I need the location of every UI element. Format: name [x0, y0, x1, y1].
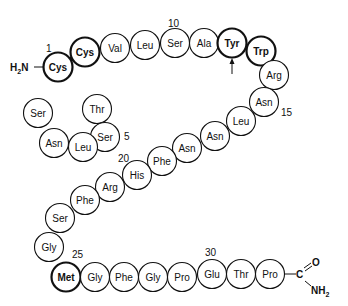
residue-gly-24: Gly — [35, 233, 64, 262]
residue-label: Asn — [255, 97, 272, 108]
residue-label: Thr — [234, 269, 250, 280]
residue-leu-5: Leu — [69, 133, 98, 162]
residue-arg-21: Arg — [96, 173, 125, 202]
residue-ala-11: Ala — [190, 29, 219, 58]
residue-label: Gly — [146, 272, 161, 283]
position-number: 10 — [168, 18, 180, 29]
residue-phe-19: Phe — [148, 147, 177, 176]
residue-label: Asn — [178, 143, 195, 154]
residue-chain: CysCysThrSerLeuAsnSerValLeuSerAlaTyrTrpA… — [24, 29, 289, 292]
residue-label: Cys — [49, 62, 68, 73]
residue-label: Tyr — [225, 38, 240, 49]
residue-label: Met — [57, 272, 75, 283]
residue-label: Arg — [266, 70, 282, 81]
residue-label: Arg — [102, 182, 118, 193]
residue-cys-2: Cys — [71, 38, 100, 67]
residue-asn-17: Asn — [201, 122, 230, 151]
residue-label: Leu — [75, 142, 92, 153]
position-number: 1 — [46, 43, 52, 54]
residue-label: Ser — [97, 132, 113, 143]
residue-label: Ser — [30, 108, 46, 119]
residue-label: Phe — [115, 272, 133, 283]
residue-leu-16: Leu — [227, 107, 256, 136]
residue-ser-23: Ser — [46, 204, 75, 233]
residue-label: Gly — [88, 272, 103, 283]
residue-leu-9: Leu — [131, 31, 160, 60]
residue-gly-28: Gly — [139, 263, 168, 292]
residue-asn-6: Asn — [40, 129, 69, 158]
position-number: 15 — [281, 107, 293, 118]
c-terminus-oxygen: O — [312, 257, 320, 268]
c-terminus-amide: NH2 — [311, 285, 329, 298]
residue-label: Phe — [153, 156, 171, 167]
residue-label: Thr — [90, 104, 106, 115]
position-number: 25 — [72, 249, 84, 260]
n-terminus-label: H2N — [10, 62, 28, 75]
arrow-icon — [230, 58, 235, 74]
position-number: 30 — [205, 247, 217, 258]
residue-thr-3: Thr — [83, 95, 112, 124]
residue-label: Ser — [52, 213, 68, 224]
residue-label: His — [130, 170, 144, 181]
residue-label: Pro — [174, 272, 190, 283]
residue-label: Asn — [45, 138, 62, 149]
peptide-diagram: H2N CysCysThrSerLeuAsnSerValLeuSerAlaTyr… — [0, 0, 348, 306]
residue-label: Leu — [233, 116, 250, 127]
residue-asn-15: Asn — [250, 88, 279, 117]
residue-ser-7: Ser — [24, 99, 53, 128]
residue-pro-32: Pro — [256, 260, 285, 289]
residue-arg-14: Arg — [260, 61, 289, 90]
residue-label: Asn — [206, 131, 223, 142]
residue-thr-31: Thr — [227, 260, 256, 289]
residue-gly-26: Gly — [81, 263, 110, 292]
position-number: 5 — [124, 131, 130, 142]
residue-phe-22: Phe — [71, 186, 100, 215]
residue-label: Trp — [253, 46, 269, 57]
residue-pro-29: Pro — [168, 263, 197, 292]
residue-cys-1: Cys — [44, 53, 73, 82]
residue-ser-10: Ser — [161, 29, 190, 58]
residue-label: Pro — [262, 269, 278, 280]
residue-glu-30: Glu — [198, 260, 227, 289]
residue-tyr-12: Tyr — [218, 29, 247, 58]
residue-label: Gly — [42, 242, 57, 253]
residue-val-8: Val — [101, 34, 130, 63]
residue-label: Glu — [204, 269, 220, 280]
n-terminus: H2N — [10, 62, 43, 75]
residue-label: Val — [108, 43, 122, 54]
residue-phe-27: Phe — [110, 263, 139, 292]
residue-label: Phe — [76, 195, 94, 206]
residue-asn-18: Asn — [173, 134, 202, 163]
c-terminus-carbon: C — [296, 269, 303, 280]
residue-label: Ser — [167, 38, 183, 49]
residue-label: Ala — [197, 38, 212, 49]
c-terminus: C O NH2 — [285, 257, 329, 298]
position-number: 20 — [118, 153, 130, 164]
residue-label: Leu — [137, 40, 154, 51]
residue-his-20: His — [123, 161, 152, 190]
residue-label: Cys — [76, 47, 95, 58]
residue-met-25: Met — [52, 263, 81, 292]
